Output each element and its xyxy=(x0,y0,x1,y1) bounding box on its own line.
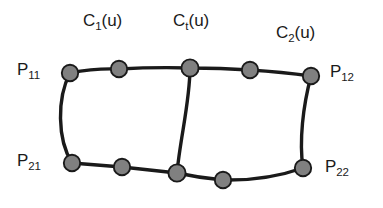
control-point-bottom-3[interactable] xyxy=(168,164,185,181)
control-point-p22[interactable] xyxy=(295,160,311,176)
curve-label-c2-arg: (u) xyxy=(294,23,315,42)
curve-paths xyxy=(60,68,311,180)
curve-label-c1-arg: (u) xyxy=(101,11,122,30)
control-point-p11[interactable] xyxy=(62,65,78,81)
point-label-p22-base: P xyxy=(325,157,336,176)
control-point-top-3[interactable] xyxy=(181,59,198,76)
curve-label-ct: Ct(u) xyxy=(173,12,209,29)
control-point-top-2[interactable] xyxy=(111,61,127,77)
point-label-p12: P12 xyxy=(330,63,354,80)
point-label-p22-sub: 22 xyxy=(336,166,348,178)
curve-label-c2: C2(u) xyxy=(276,24,315,41)
control-point-bottom-4[interactable] xyxy=(215,172,231,188)
right-cross-curve xyxy=(301,76,311,168)
control-point-top-4[interactable] xyxy=(242,62,258,78)
point-label-p12-base: P xyxy=(330,62,341,81)
point-label-p21: P21 xyxy=(17,152,41,169)
curve-label-c1: C1(u) xyxy=(83,12,122,29)
bottom-boundary-curve xyxy=(72,163,303,180)
middle-cross-curve xyxy=(177,68,190,173)
curve-label-c2-base: C xyxy=(276,23,288,42)
diagram-canvas xyxy=(0,0,383,208)
point-label-p11-base: P xyxy=(17,60,28,79)
point-label-p11: P11 xyxy=(17,61,40,78)
curve-label-ct-arg: (u) xyxy=(188,11,209,30)
curve-label-c2-sub: 2 xyxy=(288,32,294,44)
control-point-p12[interactable] xyxy=(303,68,319,84)
point-label-p22: P22 xyxy=(325,158,349,175)
point-label-p12-sub: 12 xyxy=(341,71,353,83)
point-label-p11-sub: 11 xyxy=(28,69,40,81)
curve-label-c1-sub: 1 xyxy=(95,20,101,32)
curve-network-diagram: C1(u) Ct(u) C2(u) P11 P12 P21 P22 xyxy=(0,0,383,208)
control-point-p21[interactable] xyxy=(64,155,80,171)
curve-label-c1-base: C xyxy=(83,11,95,30)
point-label-p21-base: P xyxy=(17,151,28,170)
left-cross-curve xyxy=(60,73,72,163)
control-point-bottom-2[interactable] xyxy=(114,159,130,175)
point-label-p21-sub: 21 xyxy=(28,160,40,172)
curve-label-ct-base: C xyxy=(173,11,185,30)
